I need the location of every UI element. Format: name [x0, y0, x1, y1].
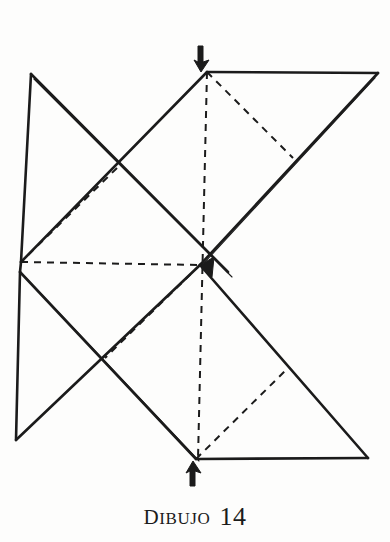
top-edge-line — [207, 72, 378, 73]
origami-diagram-figure — [0, 0, 390, 490]
caption-label: Dibujo — [144, 505, 211, 530]
mid-left-step-line — [20, 262, 21, 272]
caption-label-lead: D — [144, 505, 160, 529]
caption-number: 14 — [219, 502, 246, 532]
diagram-canvas — [0, 0, 390, 490]
bottom-edge-line — [196, 458, 368, 459]
figure-page: Dibujo 14 — [0, 0, 390, 542]
caption-label-rest: ibujo — [159, 509, 210, 528]
figure-caption: Dibujo 14 — [0, 492, 390, 542]
